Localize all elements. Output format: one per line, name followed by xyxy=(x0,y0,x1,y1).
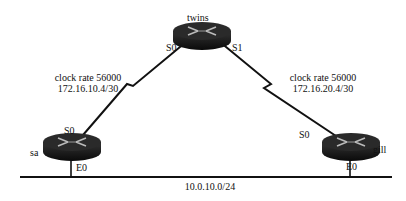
router-sa-icon xyxy=(43,133,101,161)
link2-network: 172.16.20.4/30 xyxy=(283,83,363,94)
link2-clock-rate: clock rate 56000 xyxy=(283,72,363,83)
link1-network: 172.16.10.4/30 xyxy=(48,83,128,94)
gill-s0-label: S0 xyxy=(299,129,310,140)
router-twins-icon xyxy=(173,22,231,50)
gill-e0-label: E0 xyxy=(346,161,357,172)
twins-s0-label: S0 xyxy=(166,42,177,53)
twins-s1-label: S1 xyxy=(232,42,243,53)
router-sa-label: sa xyxy=(30,147,38,158)
link1-clock-rate: clock rate 56000 xyxy=(48,72,128,83)
router-gill-icon xyxy=(322,133,380,161)
sa-s0-label: S0 xyxy=(64,125,75,136)
router-gill-label: gill xyxy=(373,144,386,155)
sa-e0-label: E0 xyxy=(76,162,87,173)
lan-network: 10.0.10.0/24 xyxy=(170,181,250,192)
router-twins-label: twins xyxy=(187,12,209,23)
